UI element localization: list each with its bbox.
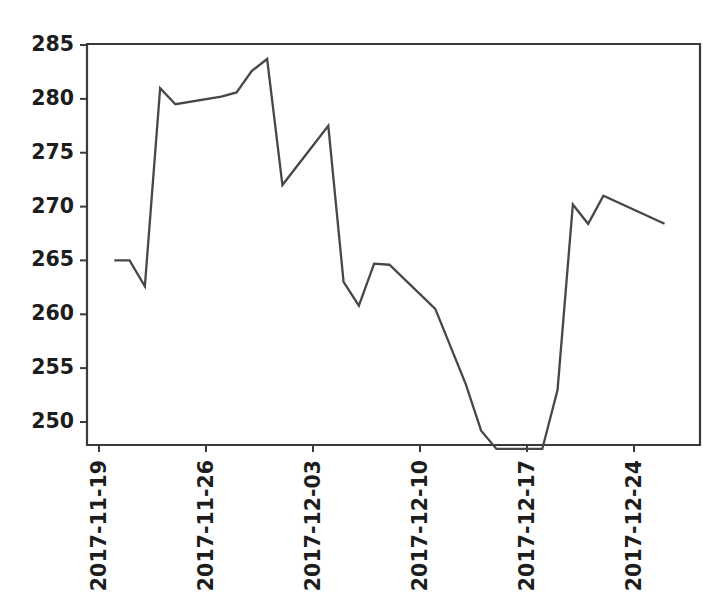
- line-chart-plot: 285 280 275 270 265 260 255 250 2017-11-…: [0, 0, 724, 603]
- y-tick-label: 260: [31, 301, 74, 325]
- x-axis-tick-labels: 2017-11-19 2017-11-26 2017-12-03 2017-12…: [87, 460, 646, 591]
- y-tick-label: 280: [31, 86, 74, 110]
- y-tick-label: 265: [31, 247, 74, 271]
- y-tick-label: 255: [31, 355, 74, 379]
- x-tick-label: 2017-12-03: [301, 460, 325, 591]
- y-tick-label: 270: [31, 194, 74, 218]
- y-tick-label: 285: [31, 32, 74, 56]
- x-tick-label: 2017-12-24: [622, 460, 646, 591]
- y-axis-tick-labels: 285 280 275 270 265 260 255 250: [31, 32, 74, 433]
- y-tick-label: 250: [31, 409, 74, 433]
- x-tick-label: 2017-11-19: [87, 460, 111, 591]
- x-tick-label: 2017-11-26: [194, 460, 218, 591]
- chart-figure: 285 280 275 270 265 260 255 250 2017-11-…: [0, 0, 724, 603]
- x-tick-label: 2017-12-10: [408, 460, 432, 591]
- y-tick-label: 275: [31, 140, 74, 164]
- x-tick-label: 2017-12-17: [515, 460, 539, 591]
